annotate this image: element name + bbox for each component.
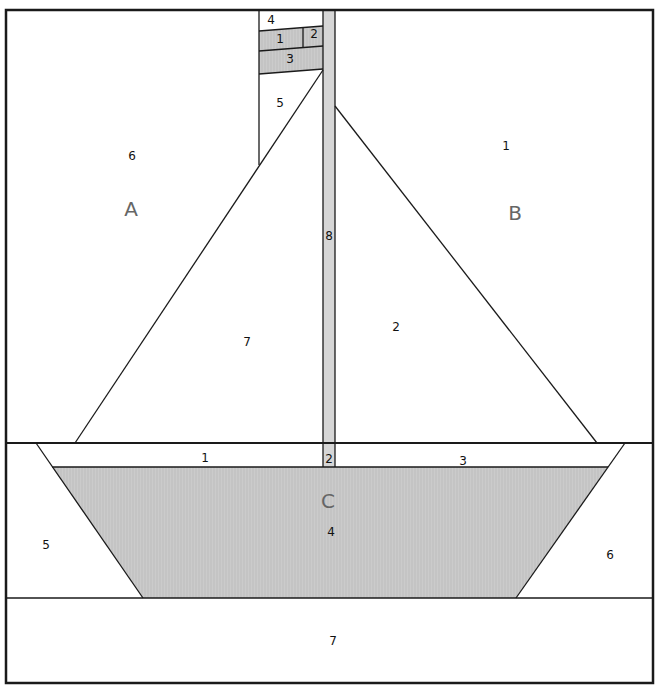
piece-c3-label: 3 [459, 454, 467, 468]
section-label-a: A [124, 197, 138, 221]
piece-a5-label: 5 [276, 96, 284, 110]
sail-b-edge [335, 106, 597, 443]
piece-a3-label: 3 [286, 52, 294, 66]
piece-a4-label: 4 [267, 13, 275, 27]
sail-a-edge [75, 70, 323, 443]
piece-a2-label: 2 [310, 27, 318, 41]
piece-a1-label: 1 [276, 32, 284, 46]
piece-b1-label: 1 [502, 139, 510, 153]
piece-c6-label: 6 [606, 548, 614, 562]
section-label-c: C [321, 489, 335, 513]
piece-a8-label: 8 [325, 229, 333, 243]
piece-c7-label: 7 [329, 634, 337, 648]
piece-c5-label: 5 [42, 538, 50, 552]
piece-a7-label: 7 [243, 335, 251, 349]
piece-a6-label: 6 [128, 149, 136, 163]
piece-c2-label: 2 [325, 452, 333, 466]
piece-c1-label: 1 [201, 451, 209, 465]
section-label-b: B [508, 201, 522, 225]
piece-b2-label: 2 [392, 320, 400, 334]
sailboat-pattern-diagram: A B C 4 1 2 3 5 6 7 8 1 2 1 2 3 4 5 6 7 [0, 0, 659, 695]
piece-c4-label: 4 [327, 525, 335, 539]
